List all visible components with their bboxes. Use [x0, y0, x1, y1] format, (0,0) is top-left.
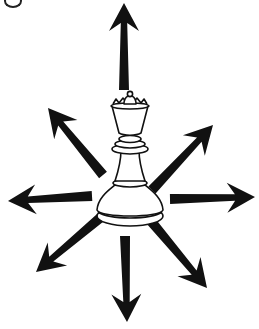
arrow-north-east-icon	[148, 125, 213, 193]
queen-movement-diagram	[0, 0, 259, 329]
arrow-west-icon	[8, 184, 92, 214]
queen-piece	[97, 91, 163, 226]
arrow-south-west-icon	[36, 214, 103, 272]
arrow-north-icon	[109, 3, 139, 90]
queen-finial-ball	[127, 91, 132, 96]
arrow-south-east-icon	[146, 217, 207, 288]
arrow-north-west-icon	[48, 108, 107, 178]
arrow-south-icon	[111, 236, 141, 322]
queen-collar-ring-1	[119, 136, 141, 143]
queen-crown-cup	[112, 106, 148, 135]
arrow-east-icon	[170, 183, 255, 213]
